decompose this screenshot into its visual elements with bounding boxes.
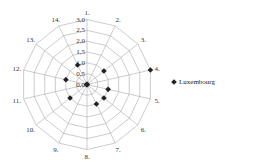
category-label: 1. — [84, 9, 90, 17]
axis-spoke — [87, 85, 115, 144]
category-label: 12. — [12, 65, 21, 73]
category-label: 2. — [116, 16, 122, 24]
data-point — [101, 95, 107, 101]
category-label: 4. — [155, 65, 161, 73]
radar-chart: 1.2.3.4.5.6.7.8.9.10.11.12.13.14.0,00,51… — [0, 0, 180, 167]
category-label: 14. — [51, 16, 60, 24]
category-label: 9. — [53, 146, 59, 154]
category-label: 7. — [116, 146, 122, 154]
category-label: 6. — [141, 126, 147, 134]
data-point — [63, 77, 69, 83]
data-point — [105, 86, 111, 92]
radial-tick-label: 1,5 — [76, 48, 85, 56]
data-point — [101, 68, 107, 74]
radial-tick-label: 0,0 — [76, 81, 85, 89]
radial-tick-label: 0,5 — [76, 70, 85, 78]
radial-tick-label: 2,5 — [76, 26, 85, 34]
data-point — [148, 67, 154, 73]
data-point — [94, 101, 100, 107]
category-label: 3. — [141, 36, 147, 44]
radial-tick-label: 2,0 — [76, 37, 85, 45]
category-label: 10. — [26, 126, 35, 134]
legend: Luxembourg — [172, 78, 215, 86]
radial-tick-label: 3,0 — [76, 16, 85, 24]
category-label: 13. — [26, 36, 35, 44]
category-label: 8. — [84, 153, 90, 161]
legend-label: Luxembourg — [179, 78, 215, 86]
data-point — [84, 82, 90, 88]
axis-spoke — [59, 85, 87, 144]
category-label: 5. — [155, 97, 161, 105]
axis-spoke — [87, 26, 115, 85]
diamond-marker-icon — [171, 79, 177, 85]
data-point — [67, 95, 73, 101]
category-label: 11. — [13, 97, 22, 105]
